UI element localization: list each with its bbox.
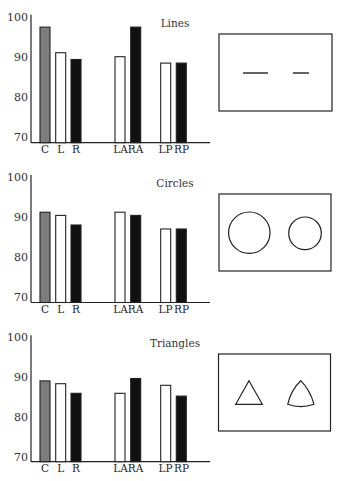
x-tick-label: L [57, 303, 64, 315]
bar-ra [131, 27, 141, 143]
x-tick-label: R [72, 462, 81, 474]
bar-la [115, 57, 125, 143]
bar-lp [161, 63, 171, 143]
bar-r [71, 60, 81, 143]
stimulus-triangles [219, 354, 331, 431]
stimulus-frame [219, 194, 331, 271]
x-tick-label: L [57, 143, 64, 155]
x-tick-label: RP [174, 143, 189, 155]
chart-circles: 708090100CirclesCLRLARALPRP [7, 171, 210, 315]
bar-la [115, 212, 125, 302]
bar-r [71, 393, 81, 461]
bar-la [115, 393, 125, 461]
y-tick-label: 70 [14, 451, 28, 464]
y-tick-label: 80 [14, 411, 28, 424]
y-tick-label: 100 [7, 331, 28, 344]
bar-rp [176, 63, 186, 143]
y-tick-label: 70 [14, 131, 28, 144]
bar-lp [161, 385, 171, 461]
bar-l [56, 215, 66, 302]
y-tick-label: 90 [14, 51, 28, 64]
x-tick-label: RA [128, 303, 144, 315]
y-tick-label: 90 [14, 371, 28, 384]
y-tick-label: 80 [14, 91, 28, 104]
x-tick-label: L [57, 462, 64, 474]
x-tick-label: LP [158, 303, 172, 315]
y-tick-label: 100 [7, 171, 28, 184]
chart-title: Triangles [150, 337, 200, 349]
stimulus-frame [219, 34, 332, 111]
x-tick-label: R [72, 143, 81, 155]
x-tick-label: RP [174, 462, 189, 474]
bar-r [71, 225, 81, 303]
x-tick-label: C [41, 143, 49, 155]
y-tick-label: 100 [7, 11, 28, 24]
stimulus-frame [219, 354, 331, 431]
x-tick-label: RP [174, 303, 189, 315]
bar-ra [131, 379, 141, 462]
x-tick-label: LA [113, 462, 128, 474]
curved-triangle-icon [288, 381, 314, 407]
x-tick-label: RA [128, 143, 144, 155]
x-tick-label: LP [158, 462, 172, 474]
chart-triangles: 708090100TrianglesCLRLARALPRP [7, 331, 210, 474]
x-tick-label: RA [128, 462, 144, 474]
bar-lp [161, 229, 171, 303]
y-tick-label: 80 [14, 251, 28, 264]
bar-l [56, 53, 66, 143]
small-circle-icon [289, 217, 322, 250]
x-tick-label: LP [158, 143, 172, 155]
figure: 708090100LinesCLRLARALPRP 708090100Circl… [0, 0, 344, 481]
x-tick-label: LA [113, 303, 128, 315]
x-tick-label: R [72, 303, 81, 315]
bar-l [56, 384, 66, 462]
triangle-icon [236, 381, 263, 405]
bar-rp [176, 229, 186, 303]
bar-c [40, 27, 50, 143]
x-tick-label: C [41, 303, 49, 315]
bar-ra [131, 215, 141, 302]
large-circle-icon [229, 212, 270, 253]
x-tick-label: C [41, 462, 49, 474]
stimulus-circles [219, 194, 331, 271]
y-tick-label: 90 [14, 211, 28, 224]
chart-title: Circles [156, 177, 193, 189]
x-tick-label: LA [113, 143, 128, 155]
bar-c [40, 381, 50, 462]
bar-c [40, 212, 50, 302]
chart-title: Lines [161, 17, 190, 29]
y-tick-label: 70 [14, 291, 28, 304]
chart-lines: 708090100LinesCLRLARALPRP [7, 11, 210, 156]
stimulus-lines [219, 34, 332, 111]
bar-rp [176, 396, 186, 462]
